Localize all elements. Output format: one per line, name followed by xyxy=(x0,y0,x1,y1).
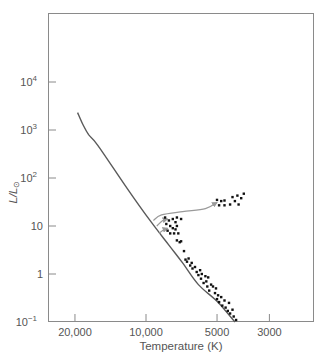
star-point xyxy=(202,282,204,284)
star-point xyxy=(229,312,231,314)
star-point xyxy=(200,278,202,280)
y-tick-label: 1 xyxy=(37,268,43,280)
star-point xyxy=(176,239,178,241)
star-point xyxy=(220,200,222,202)
star-point xyxy=(174,221,176,223)
star-point xyxy=(227,310,229,312)
star-point xyxy=(194,266,196,268)
star-point xyxy=(205,280,207,282)
star-point xyxy=(174,228,176,230)
star-point xyxy=(234,200,236,202)
star-point xyxy=(173,232,175,234)
y-tick-label: 102 xyxy=(20,170,37,184)
x-tick-label: 5000 xyxy=(205,326,229,338)
star-point xyxy=(228,302,230,304)
star-point xyxy=(237,203,239,205)
star-point xyxy=(206,285,208,287)
star-point xyxy=(164,216,166,218)
star-point xyxy=(204,275,206,277)
star-point xyxy=(172,218,174,220)
star-point xyxy=(183,250,185,252)
star-point xyxy=(218,204,220,206)
hr-diagram-chart: 10−1110102103104 20,00010,00050003000 Te… xyxy=(0,0,321,357)
star-point xyxy=(223,204,225,206)
star-point xyxy=(223,199,225,201)
star-point xyxy=(220,296,222,298)
y-axis-title: L/L⊙ xyxy=(7,181,21,204)
star-point xyxy=(236,194,238,196)
x-axis-title: Temperature (K) xyxy=(139,340,222,352)
star-point xyxy=(201,273,203,275)
star-point xyxy=(184,258,186,260)
evolution-arrow xyxy=(153,202,217,220)
star-point xyxy=(235,319,237,321)
star-point xyxy=(186,261,188,263)
y-tick-label: 10 xyxy=(31,220,43,232)
star-point xyxy=(218,301,220,303)
star-point xyxy=(233,315,235,317)
star-point xyxy=(165,223,167,225)
star-point xyxy=(189,264,191,266)
y-tick-label: 104 xyxy=(20,74,37,88)
star-point xyxy=(191,267,193,269)
star-point xyxy=(191,262,193,264)
evolution-arrow xyxy=(159,228,168,233)
star-point xyxy=(176,216,178,218)
star-point xyxy=(214,292,216,294)
star-point xyxy=(212,285,214,287)
star-point xyxy=(197,274,199,276)
y-axis-ticks: 10−1110102103104 xyxy=(16,74,56,328)
star-point xyxy=(177,232,179,234)
star-point xyxy=(199,269,201,271)
star-point xyxy=(221,304,223,306)
star-point xyxy=(240,197,242,199)
star-point xyxy=(166,230,168,232)
star-point xyxy=(215,287,217,289)
star-point xyxy=(208,289,210,291)
y-tick-label: 10−1 xyxy=(16,314,38,328)
star-point xyxy=(223,299,225,301)
evolution-arrows xyxy=(153,202,217,233)
star-point xyxy=(243,193,245,195)
star-point xyxy=(231,196,233,198)
star-point xyxy=(168,219,170,221)
star-point xyxy=(216,199,218,201)
x-tick-label: 20,000 xyxy=(58,326,92,338)
star-point xyxy=(196,271,198,273)
y-tick-label: 103 xyxy=(20,122,37,136)
star-point xyxy=(169,225,171,227)
x-tick-label: 10,000 xyxy=(129,326,163,338)
star-point xyxy=(207,276,209,278)
star-point xyxy=(216,298,218,300)
star-point xyxy=(172,227,174,229)
star-point xyxy=(180,240,182,242)
star-point xyxy=(231,309,233,311)
star-data-points xyxy=(164,193,245,322)
star-point xyxy=(169,232,171,234)
star-point xyxy=(224,306,226,308)
star-point xyxy=(176,225,178,227)
star-point xyxy=(180,218,182,220)
x-tick-label: 3000 xyxy=(257,326,281,338)
plot-frame xyxy=(49,14,314,322)
star-point xyxy=(217,294,219,296)
star-point xyxy=(187,257,189,259)
star-point xyxy=(229,203,231,205)
x-axis-ticks: 20,00010,00050003000 xyxy=(58,314,282,338)
